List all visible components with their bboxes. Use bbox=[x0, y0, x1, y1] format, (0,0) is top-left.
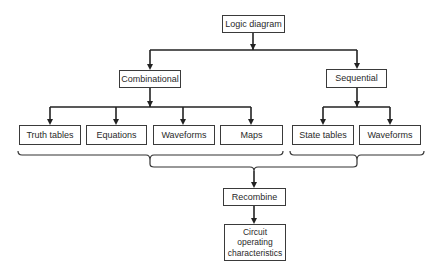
node-recombine: Recombine bbox=[223, 188, 286, 206]
brace-recombine bbox=[150, 160, 357, 171]
node-combinational: Combinational bbox=[119, 70, 181, 88]
arrowhead-logic-down bbox=[250, 44, 256, 50]
brace-sequential-group bbox=[290, 151, 424, 160]
node-circuit-operating-characteristics: Circuit operating characteristics bbox=[224, 224, 286, 261]
node-waveforms-sequential: Waveforms bbox=[359, 125, 421, 145]
brace-combinational-group bbox=[18, 151, 283, 160]
arrowhead-sequential-down bbox=[354, 101, 360, 107]
node-waveforms-combinational: Waveforms bbox=[153, 125, 215, 145]
node-maps: Maps bbox=[220, 125, 283, 145]
arrowhead-combinational-down bbox=[147, 101, 153, 107]
node-state-tables: State tables bbox=[292, 125, 354, 145]
node-truth-tables: Truth tables bbox=[19, 125, 81, 145]
logic-design-flow-diagram: Logic diagram Combinational Sequential T… bbox=[0, 0, 440, 275]
node-sequential: Sequential bbox=[326, 69, 387, 88]
node-equations: Equations bbox=[86, 125, 147, 145]
node-logic-diagram: Logic diagram bbox=[222, 15, 285, 33]
